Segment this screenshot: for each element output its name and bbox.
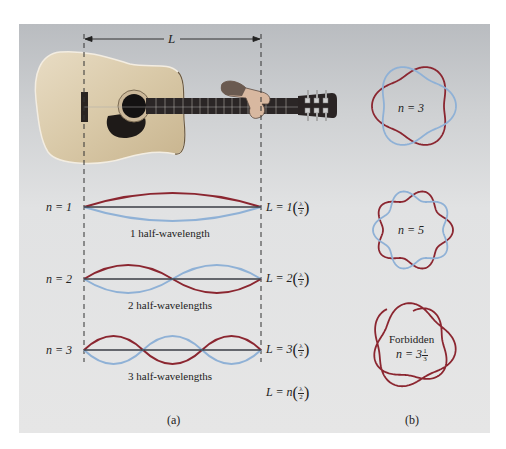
- figure-drawing: [0, 0, 506, 449]
- standing-wave-n2: [84, 265, 261, 293]
- mode-n2-text: n = 2: [46, 272, 72, 286]
- mode-n2-label: n = 2: [46, 272, 72, 287]
- ring-forbidden-n: n = 3: [396, 347, 422, 361]
- equation-n3-prefix: L = 3: [266, 342, 293, 356]
- mode-n1-label: n = 1: [46, 200, 72, 215]
- equation-n1-prefix: L = 1: [266, 200, 293, 214]
- equation-n3: L = 3(λ2): [266, 341, 309, 359]
- length-label: L: [168, 31, 175, 47]
- guitar-illustration: [35, 52, 337, 164]
- ring-n5-label: n = 5: [398, 223, 424, 238]
- standing-wave-n3: [84, 336, 261, 364]
- mode-n1-text: n = 1: [46, 200, 72, 214]
- standing-wave-n1: [84, 193, 261, 221]
- mode-n3-label: n = 3: [46, 343, 72, 358]
- ring-forbidden-title: Forbidden: [389, 333, 434, 345]
- equation-n1: L = 1(λ2): [266, 199, 309, 217]
- mode-n1-caption: 1 half-wavelength: [130, 227, 210, 239]
- mode-n3-text: n = 3: [46, 343, 72, 357]
- equation-general-prefix: L = n: [266, 385, 293, 399]
- equation-n2-prefix: L = 2: [266, 271, 293, 285]
- equation-general: L = n(λ2): [266, 384, 309, 402]
- one-third-fraction: 13: [422, 348, 428, 363]
- mode-n2-caption: 2 half-wavelengths: [128, 299, 212, 311]
- mode-n3-caption: 3 half-wavelengths: [128, 370, 212, 382]
- panel-b-caption: (b): [405, 413, 419, 428]
- equation-n2: L = 2(λ2): [266, 270, 309, 288]
- panel-a-caption: (a): [167, 413, 180, 428]
- ring-forbidden-label: n = 313: [396, 347, 428, 363]
- ring-n3-label: n = 3: [398, 101, 424, 116]
